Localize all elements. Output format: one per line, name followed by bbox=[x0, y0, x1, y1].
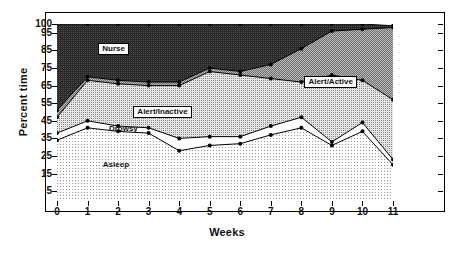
x-tick-mark bbox=[362, 201, 363, 206]
y-tick-label: 100 bbox=[8, 19, 52, 29]
data-point bbox=[177, 136, 181, 140]
data-point bbox=[208, 70, 212, 74]
x-tick-label: 11 bbox=[383, 206, 403, 217]
data-point bbox=[360, 129, 364, 133]
y-tick-label: 5 bbox=[8, 186, 52, 196]
x-tick-label: 9 bbox=[322, 206, 342, 217]
y-tick-mark-right bbox=[438, 191, 443, 192]
x-tick-mark bbox=[179, 201, 180, 206]
data-point bbox=[238, 73, 242, 77]
annotation-drowsy: Drowsy bbox=[109, 125, 138, 133]
y-tick-mark-right bbox=[438, 174, 443, 175]
y-tick-label: 45 bbox=[8, 116, 52, 126]
x-tick-label: 7 bbox=[261, 206, 281, 217]
y-tick-label: 65 bbox=[8, 81, 52, 91]
data-point bbox=[360, 27, 364, 31]
data-point bbox=[147, 84, 151, 88]
data-point bbox=[238, 70, 242, 74]
x-tick-label: 4 bbox=[169, 206, 189, 217]
x-tick-label: 1 bbox=[78, 206, 98, 217]
data-point bbox=[177, 149, 181, 153]
annotation-nurse: Nurse bbox=[98, 43, 129, 55]
data-point bbox=[360, 78, 364, 82]
y-tick-mark-right bbox=[438, 68, 443, 69]
data-point bbox=[177, 80, 181, 84]
x-tick-label: 6 bbox=[230, 206, 250, 217]
data-point bbox=[147, 131, 151, 135]
plot-area: NurseAlert/InactiveAlert/ActiveDrowsyAsl… bbox=[57, 24, 393, 200]
y-tick-label: 15 bbox=[8, 169, 52, 179]
x-tick-mark bbox=[271, 201, 272, 206]
y-tick-label: 55 bbox=[8, 98, 52, 108]
y-tick-mark-right bbox=[438, 103, 443, 104]
data-point bbox=[269, 62, 273, 66]
y-tick-mark-right bbox=[438, 33, 443, 34]
data-point bbox=[208, 135, 212, 139]
x-tick-mark bbox=[57, 201, 58, 206]
data-point bbox=[299, 115, 303, 119]
x-tick-label: 10 bbox=[352, 206, 372, 217]
data-point bbox=[86, 126, 90, 130]
data-point bbox=[177, 84, 181, 88]
x-tick-mark bbox=[210, 201, 211, 206]
chart-container: Percent time Weeks 515253545556575859510… bbox=[0, 0, 454, 253]
data-point bbox=[269, 133, 273, 137]
x-tick-mark bbox=[88, 201, 89, 206]
data-point bbox=[238, 142, 242, 146]
data-point bbox=[360, 121, 364, 125]
x-tick-mark bbox=[332, 201, 333, 206]
x-tick-label: 2 bbox=[108, 206, 128, 217]
data-point bbox=[147, 126, 151, 130]
data-point bbox=[208, 66, 212, 70]
y-tick-label: 35 bbox=[8, 133, 52, 143]
data-point bbox=[330, 143, 334, 147]
x-tick-mark bbox=[149, 201, 150, 206]
x-tick-mark bbox=[301, 201, 302, 206]
data-point bbox=[116, 82, 120, 86]
y-tick-mark-right bbox=[438, 121, 443, 122]
data-point bbox=[330, 29, 334, 33]
x-tick-mark bbox=[118, 201, 119, 206]
y-tick-mark-right bbox=[438, 86, 443, 87]
y-tick-label: 25 bbox=[8, 151, 52, 161]
y-tick-mark-right bbox=[438, 156, 443, 157]
y-tick-label: 75 bbox=[8, 63, 52, 73]
x-tick-label: 0 bbox=[47, 206, 67, 217]
data-point bbox=[238, 135, 242, 139]
data-point bbox=[147, 80, 151, 84]
x-tick-label: 8 bbox=[291, 206, 311, 217]
x-tick-label: 5 bbox=[200, 206, 220, 217]
y-tick-mark-right bbox=[438, 24, 443, 25]
annotation-alert-active: Alert/Active bbox=[304, 76, 356, 88]
y-tick-label: 95 bbox=[8, 28, 52, 38]
y-tick-mark-right bbox=[438, 50, 443, 51]
data-point bbox=[116, 78, 120, 82]
data-point bbox=[86, 75, 90, 79]
data-point bbox=[330, 140, 334, 144]
data-point bbox=[299, 47, 303, 51]
y-tick-mark-right bbox=[438, 138, 443, 139]
x-tick-mark bbox=[240, 201, 241, 206]
x-tick-mark bbox=[393, 201, 394, 206]
annotation-asleep: Asleep bbox=[103, 161, 129, 169]
data-point bbox=[86, 119, 90, 123]
data-point bbox=[208, 143, 212, 147]
data-point bbox=[299, 80, 303, 84]
data-point bbox=[269, 124, 273, 128]
y-tick-label: 85 bbox=[8, 45, 52, 55]
x-axis-title: Weeks bbox=[0, 226, 454, 238]
x-tick-label: 3 bbox=[139, 206, 159, 217]
data-point bbox=[299, 126, 303, 130]
annotation-alert-inactive: Alert/Inactive bbox=[133, 106, 191, 118]
data-point bbox=[269, 77, 273, 81]
